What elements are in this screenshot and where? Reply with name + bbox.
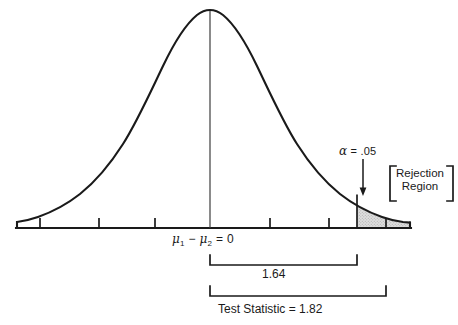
mu-subscript-2: 2 — [208, 239, 213, 248]
test-statistic-text: Test Statistic = 1.82 — [218, 303, 322, 317]
axis-tick-marks — [40, 218, 386, 228]
minus-operator: − — [189, 232, 196, 246]
critical-value-text: 1.64 — [262, 268, 285, 282]
mu-subscript-1: 1 — [180, 239, 185, 248]
alpha-annotation: α = .05 — [339, 145, 376, 159]
rejection-region-shading — [357, 8, 410, 228]
null-hypothesis-label: μ1 − μ2 = 0 — [172, 233, 234, 249]
alpha-symbol: α — [339, 144, 347, 158]
equals-zero: = 0 — [216, 232, 234, 246]
mu-symbol-2: μ — [199, 232, 207, 246]
rejection-region-caption: Rejection Region — [396, 167, 444, 193]
rejection-region-line-1: Rejection — [396, 167, 444, 180]
alpha-arrow-icon — [360, 159, 367, 196]
normal-curve — [17, 10, 410, 223]
critical-value-bracket — [210, 255, 357, 265]
mu-symbol-1: μ — [172, 232, 180, 246]
alpha-value-text: = .05 — [351, 145, 377, 157]
statistics-figure: α = .05 Rejection Region μ1 − μ2 = 0 1.6… — [0, 0, 458, 325]
rejection-region-line-2: Region — [396, 180, 444, 193]
distribution-chart-canvas — [0, 0, 458, 325]
test-statistic-bracket — [210, 286, 386, 296]
